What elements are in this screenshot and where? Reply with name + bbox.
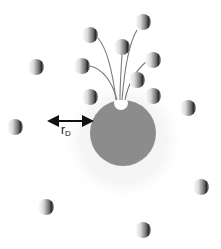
molecule-sphere	[114, 39, 130, 55]
molecule-sphere	[129, 72, 145, 88]
molecule-sphere	[74, 58, 90, 74]
radius-label-subscript: D	[65, 129, 71, 138]
molecule-sphere	[82, 89, 98, 105]
diagram-svg	[0, 0, 221, 249]
figure-canvas: rD	[0, 0, 221, 249]
molecule-sphere	[180, 100, 196, 116]
molecule-sphere	[135, 14, 151, 30]
molecule-sphere	[145, 88, 161, 104]
molecule-sphere	[145, 52, 161, 68]
molecule-sphere	[38, 199, 54, 215]
molecule-sphere	[135, 222, 151, 238]
molecule-sphere	[7, 119, 23, 135]
disc-circle	[90, 100, 156, 166]
radius-label: rD	[61, 124, 71, 138]
molecule-sphere	[28, 59, 44, 75]
molecule-sphere	[82, 27, 98, 43]
molecule-sphere	[193, 179, 209, 195]
